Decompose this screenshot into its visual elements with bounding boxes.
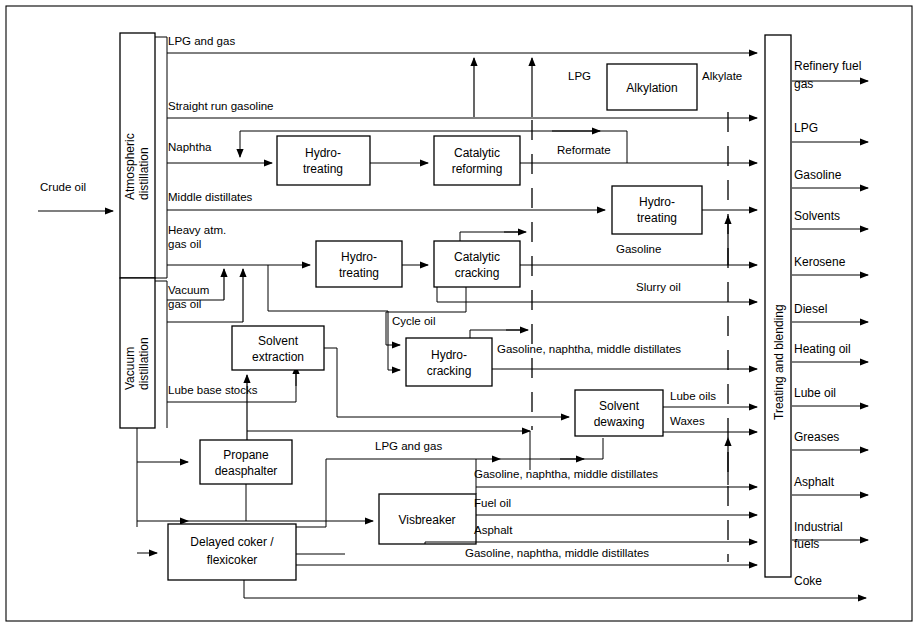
label-asphalt-visbreaker: Asphalt	[474, 524, 513, 536]
label-visbreaker: Visbreaker	[398, 513, 455, 527]
unit-catalytic-reforming[interactable]	[434, 136, 520, 185]
label-alkylate: Alkylate	[702, 70, 742, 82]
label-gasoline-fcc: Gasoline	[616, 243, 661, 255]
label-lube-oils: Lube oils	[670, 390, 716, 402]
label-catalytic-reforming-2: reforming	[452, 162, 503, 176]
label-product-heating-oil: Heating oil	[794, 342, 851, 356]
label-product-lube-oil: Lube oil	[794, 386, 836, 400]
label-catalytic-reforming-1: Catalytic	[454, 146, 500, 160]
unit-hydrotreating-middle-distillates[interactable]	[612, 186, 702, 234]
label-fuel-oil: Fuel oil	[474, 497, 511, 509]
label-hydrotreating-naphtha-2: treating	[303, 162, 343, 176]
label-solvent-extraction-2: extraction	[252, 350, 304, 364]
label-product-lpg: LPG	[794, 121, 818, 135]
label-reformate: Reformate	[557, 144, 611, 156]
label-crude-oil: Crude oil	[40, 181, 86, 193]
unit-catalytic-cracking[interactable]	[434, 241, 520, 287]
label-atmospheric-distillation-2: distillation	[137, 147, 151, 200]
label-product-greases: Greases	[794, 430, 839, 444]
label-propane-deasphalter-2: deasphalter	[215, 464, 278, 478]
label-middle-distillates: Middle distillates	[168, 191, 253, 203]
label-gnm-coker: Gasoline, naphtha, middle distillates	[465, 547, 649, 559]
label-lpg-and-gas-lower: LPG and gas	[375, 440, 442, 452]
label-product-refinery-fuel-gas-2: gas	[794, 77, 813, 91]
label-vacuum-distillation-1: Vacuum	[123, 347, 137, 390]
label-product-diesel: Diesel	[794, 302, 827, 316]
label-hydrotreating-naphtha-1: Hydro-	[305, 146, 341, 160]
label-product-kerosene: Kerosene	[794, 255, 846, 269]
label-hydrocracking-1: Hydro-	[431, 348, 467, 362]
unit-hydrocracking[interactable]	[406, 338, 492, 386]
label-atmospheric-distillation-1: Atmospheric	[123, 133, 137, 200]
label-vacuum-gas-oil-2: gas oil	[168, 298, 201, 310]
label-vacuum-distillation-2: distillation	[137, 337, 151, 390]
label-solvent-dewaxing-1: Solvent	[599, 399, 640, 413]
label-straight-run-gasoline: Straight run gasoline	[168, 100, 273, 112]
label-catalytic-cracking-1: Catalytic	[454, 250, 500, 264]
label-slurry-oil: Slurry oil	[636, 281, 681, 293]
label-solvent-dewaxing-2: dewaxing	[594, 415, 645, 429]
label-naphtha: Naphtha	[168, 141, 212, 153]
unit-hydrotreating-gas-oil[interactable]	[316, 241, 402, 287]
label-hydrotreating-gasoil-2: treating	[339, 266, 379, 280]
label-product-solvents: Solvents	[794, 209, 840, 223]
label-heavy-atm-gas-oil-1: Heavy atm.	[168, 224, 226, 236]
label-hydrocracking-2: cracking	[427, 364, 472, 378]
label-vacuum-gas-oil-1: Vacuum	[168, 284, 209, 296]
label-catalytic-cracking-2: cracking	[455, 266, 500, 280]
label-product-industrial-fuels-1: Industrial	[794, 520, 843, 534]
product-outputs: Refinery fuel gas LPG Gasoline Solvents …	[792, 59, 868, 551]
label-hydrotreating-middle-2: treating	[637, 211, 677, 225]
label-product-asphalt: Asphalt	[794, 475, 835, 489]
refinery-flow-diagram: Crude oil Atmospheric distillation Vacuu…	[0, 0, 918, 627]
label-alkylation: Alkylation	[626, 81, 677, 95]
unit-delayed-coker[interactable]	[168, 524, 296, 580]
label-lpg-and-gas-top: LPG and gas	[168, 35, 235, 47]
label-product-industrial-fuels-2: fuels	[794, 537, 819, 551]
label-cycle-oil: Cycle oil	[392, 315, 435, 327]
label-gnm-visbreaker: Gasoline, naphtha, middle distillates	[474, 468, 658, 480]
label-waxes: Waxes	[670, 415, 705, 427]
label-treating-and-blending: Treating and blending	[772, 304, 786, 420]
unit-solvent-dewaxing[interactable]	[575, 390, 663, 436]
label-delayed-coker-1: Delayed coker /	[190, 535, 274, 549]
label-gnm-hydrocracking: Gasoline, naphtha, middle distillates	[497, 343, 681, 355]
label-hydrotreating-middle-1: Hydro-	[639, 195, 675, 209]
unit-hydrotreating-naphtha[interactable]	[277, 136, 370, 185]
label-solvent-extraction-1: Solvent	[258, 334, 299, 348]
process-flow-svg: Crude oil Atmospheric distillation Vacuu…	[0, 0, 918, 627]
label-product-refinery-fuel-gas-1: Refinery fuel	[794, 59, 861, 73]
label-lpg-alkylation-feed: LPG	[568, 70, 591, 82]
label-product-gasoline: Gasoline	[794, 168, 842, 182]
label-lube-base-stocks: Lube base stocks	[168, 384, 258, 396]
label-heavy-atm-gas-oil-2: gas oil	[168, 238, 201, 250]
label-coke: Coke	[794, 574, 822, 588]
label-delayed-coker-2: flexicoker	[207, 553, 258, 567]
label-hydrotreating-gasoil-1: Hydro-	[341, 250, 377, 264]
label-propane-deasphalter-1: Propane	[223, 448, 269, 462]
